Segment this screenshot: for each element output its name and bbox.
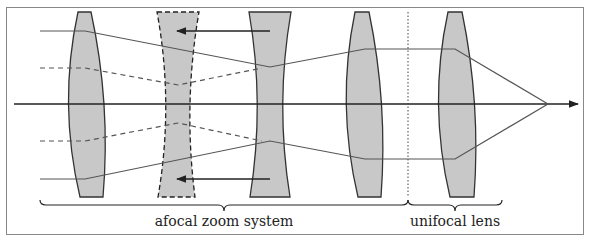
brace-afocal xyxy=(40,200,408,211)
brace-unifocal xyxy=(408,200,502,211)
optical-zoom-diagram: afocal zoom system unifocal lens xyxy=(0,0,590,241)
label-unifocal-lens: unifocal lens xyxy=(410,213,500,229)
label-afocal-zoom-system: afocal zoom system xyxy=(155,213,294,229)
